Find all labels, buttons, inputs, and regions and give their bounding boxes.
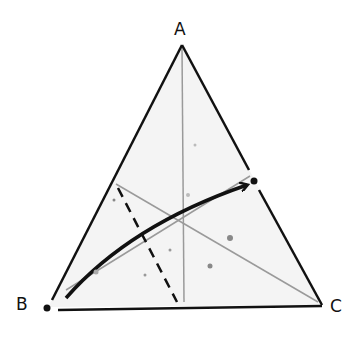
speck [186, 193, 190, 197]
speck [227, 235, 233, 241]
speck [194, 144, 197, 147]
speck [169, 249, 172, 252]
point-on-ac [251, 178, 258, 185]
ternary-diagram [0, 0, 355, 340]
vertex-label-a: A [174, 19, 186, 39]
triangle-fill [48, 45, 322, 307]
speck [208, 264, 213, 269]
speck [113, 199, 116, 202]
speck [144, 274, 147, 277]
vertex-label-b: B [16, 294, 28, 314]
speck [94, 270, 99, 275]
point-b [44, 305, 51, 312]
vertex-label-c: C [330, 296, 342, 316]
